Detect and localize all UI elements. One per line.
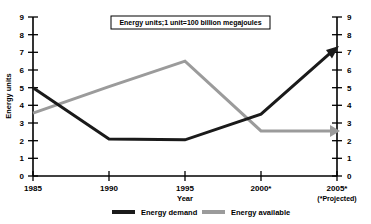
left-tick-6: 6: [20, 66, 25, 75]
units-callout: Energy units;1 unit=100 billion megajoul…: [111, 16, 270, 29]
left-y-axis: 0 1 2 3 4 5 6 7 8 9 Energy units: [4, 13, 38, 181]
series-energy-available: [33, 61, 340, 137]
left-tick-4: 4: [20, 101, 25, 110]
left-tick-8: 8: [20, 31, 25, 40]
energy-chart: 0 1 2 3 4 5 6 7 8 9 Energy units: [0, 0, 371, 224]
energy-available-arrowhead: [330, 125, 340, 137]
x-tick-2000: 2000*: [251, 184, 273, 193]
left-tick-1: 1: [20, 154, 25, 163]
right-tick-3: 3: [347, 119, 352, 128]
left-tick-0: 0: [20, 172, 25, 181]
chart-svg: 0 1 2 3 4 5 6 7 8 9 Energy units: [0, 0, 371, 224]
x-tick-1990: 1990: [100, 184, 118, 193]
x-axis: 1985 1990 1995 2000* 2005* Year (*Projec…: [24, 171, 357, 203]
y-axis-title: Energy units: [4, 73, 13, 118]
energy-available-line: [33, 61, 330, 131]
right-tick-7: 7: [347, 48, 352, 57]
left-tick-3: 3: [20, 119, 25, 128]
right-tick-9: 9: [347, 13, 352, 22]
legend-label-energy-available: Energy available: [231, 208, 290, 217]
x-tick-2005: 2005*: [327, 184, 349, 193]
right-tick-6: 6: [347, 66, 352, 75]
legend-label-energy-demand: Energy demand: [141, 208, 198, 217]
left-tick-7: 7: [20, 48, 25, 57]
x-tick-1995: 1995: [176, 184, 194, 193]
right-tick-8: 8: [347, 31, 352, 40]
units-callout-text: Energy units;1 unit=100 billion megajoul…: [119, 19, 261, 27]
right-y-axis: 0 1 2 3 4 5 6 7 8 9: [332, 13, 352, 181]
left-tick-9: 9: [20, 13, 25, 22]
x-axis-title: Year: [177, 194, 193, 203]
left-tick-5: 5: [20, 84, 25, 93]
right-tick-2: 2: [347, 137, 352, 146]
right-tick-0: 0: [347, 172, 352, 181]
right-tick-5: 5: [347, 84, 352, 93]
x-tick-1985: 1985: [24, 184, 42, 193]
x-axis-footnote: (*Projected): [317, 195, 356, 203]
left-tick-2: 2: [20, 137, 25, 146]
chart-legend: Energy demand Energy available: [112, 208, 290, 217]
right-tick-1: 1: [347, 154, 352, 163]
right-tick-4: 4: [347, 101, 352, 110]
